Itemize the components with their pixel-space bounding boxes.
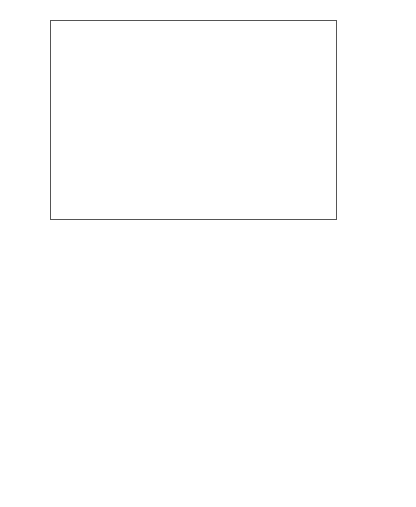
panel-b	[0, 254, 416, 507]
figure-container	[0, 0, 416, 507]
panel-a	[0, 0, 416, 253]
caption-strip-cropped	[0, 503, 416, 507]
plot-box-a	[50, 20, 337, 220]
